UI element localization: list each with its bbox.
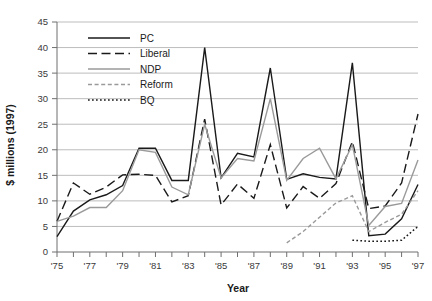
x-tick-label: '91 [313,260,325,271]
legend-label-bq: BQ [140,95,155,106]
x-tick-label: '87 [248,260,260,271]
x-tick-label: '81 [149,260,161,271]
y-axis-ticks: 051015202530354045 [37,16,57,257]
legend-label-ndp: NDP [140,64,161,75]
y-axis-label: $ millions (1997) [4,104,16,186]
legend-label-reform: Reform [140,79,173,90]
chart-container: 051015202530354045 '75'77'79'81'83'85'87… [0,0,432,301]
x-tick-label: '95 [379,260,391,271]
y-tick-label: 40 [37,42,48,53]
series-line-ndp [57,99,418,226]
series-line-liberal [57,114,418,221]
series-line-pc [57,48,418,237]
x-tick-label: '83 [182,260,194,271]
y-tick-label: 30 [37,93,48,104]
legend-label-liberal: Liberal [140,48,170,59]
chart-legend: PCLiberalNDPReformBQ [88,33,173,106]
x-tick-label: '97 [412,260,424,271]
x-axis-ticks: '75'77'79'81'83'85'87'89'91'93'95'97 [51,252,424,271]
y-tick-label: 20 [37,144,48,155]
y-tick-label: 5 [43,221,48,232]
y-tick-label: 25 [37,119,48,130]
series-line-reform [287,191,418,243]
y-tick-label: 0 [43,246,48,257]
x-tick-label: '93 [346,260,358,271]
x-tick-label: '79 [116,260,128,271]
x-tick-label: '77 [84,260,96,271]
y-tick-label: 10 [37,195,48,206]
gridlines [57,22,418,252]
x-tick-label: '75 [51,260,63,271]
line-chart: 051015202530354045 '75'77'79'81'83'85'87… [0,0,432,301]
x-axis-label: Year [227,282,249,294]
data-series [57,48,418,243]
y-tick-label: 15 [37,170,48,181]
y-tick-label: 45 [37,16,48,27]
x-tick-label: '89 [281,260,293,271]
x-tick-label: '85 [215,260,227,271]
y-tick-label: 35 [37,68,48,79]
legend-label-pc: PC [140,33,154,44]
